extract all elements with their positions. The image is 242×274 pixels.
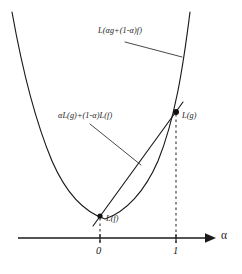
curve-label-leader-line: [125, 42, 182, 57]
chord-line: [93, 102, 183, 226]
tick-label-1: 1: [173, 246, 178, 257]
alpha-axis-label: α: [221, 230, 227, 242]
tick-label-0: 0: [96, 246, 101, 257]
point-marker-lg: [173, 109, 179, 115]
chord-expression-label: αL(g)+(1-α)L(f): [58, 112, 112, 120]
convexity-figure: L(αg+(1-α)f) αL(g)+(1-α)L(f) L(g) L(f) α…: [0, 0, 242, 274]
figure-canvas: [0, 0, 242, 274]
point-label-lf: L(f): [106, 215, 119, 223]
point-label-lg: L(g): [182, 112, 197, 120]
alpha-axis-arrowhead: [205, 233, 216, 243]
point-marker-lf: [97, 213, 102, 218]
curve-expression-label: L(αg+(1-α)f): [98, 27, 142, 35]
chord-label-leader-line: [90, 124, 141, 165]
